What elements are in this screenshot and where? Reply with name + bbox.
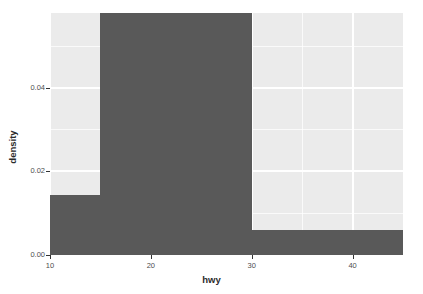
x-axis-title: hwy	[0, 274, 423, 285]
gridline-major-vertical	[352, 13, 354, 255]
y-tick-label: 0.04	[30, 84, 45, 92]
histogram-bar	[252, 230, 403, 255]
x-tick-mark	[50, 255, 51, 259]
x-tick-label: 20	[147, 262, 155, 270]
y-tick-mark	[46, 255, 50, 256]
y-tick-label: 0.00	[30, 251, 45, 259]
x-tick-label: 10	[46, 262, 54, 270]
y-axis-title: density	[6, 0, 20, 294]
y-tick-mark	[46, 171, 50, 172]
x-tick-label: 30	[248, 262, 256, 270]
y-tick-mark	[46, 88, 50, 89]
histogram-bar	[50, 195, 100, 255]
x-tick-mark	[353, 255, 354, 259]
gridline-minor-vertical	[302, 13, 303, 255]
y-tick-label: 0.02	[30, 168, 45, 176]
histogram-bar	[100, 13, 251, 255]
histogram-plot: 102030400.000.020.04 hwy density	[0, 0, 423, 294]
x-tick-mark	[151, 255, 152, 259]
plot-panel	[50, 13, 403, 255]
x-tick-mark	[252, 255, 253, 259]
x-tick-label: 40	[348, 262, 356, 270]
